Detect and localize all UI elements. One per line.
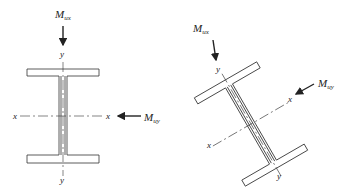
label-muy-left: Muy <box>143 111 161 125</box>
x-axis <box>213 102 289 146</box>
label-y-bottom-right: y <box>276 171 281 181</box>
label-x-right-left: x <box>105 111 110 121</box>
label-muy-right: Muy <box>317 77 335 91</box>
label-x-left-right: x <box>206 140 211 150</box>
label-x-left-left: x <box>12 111 17 121</box>
mux-arrow <box>213 40 216 60</box>
label-y-top-right: y <box>215 64 220 74</box>
label-y-bottom-left: y <box>59 175 64 185</box>
i-beam-diagram: Mux y y x x Muy Mux y y x x Muy <box>0 0 348 193</box>
upright-section <box>20 26 141 176</box>
label-y-top-left: y <box>59 49 64 59</box>
rotated-section <box>184 52 319 193</box>
label-mux-right: Mux <box>192 22 210 36</box>
label-x-right-right: x <box>287 94 292 104</box>
label-mux-left: Mux <box>54 8 72 22</box>
muy-arrow <box>296 84 314 94</box>
y-axis <box>222 74 281 176</box>
